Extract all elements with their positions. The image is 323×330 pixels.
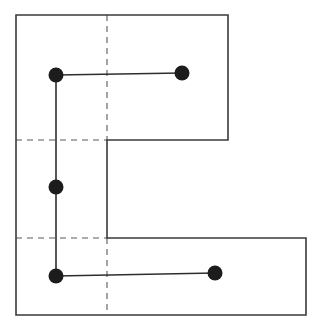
node-dot	[49, 180, 64, 195]
path-nodes	[49, 66, 223, 284]
connecting-path	[56, 73, 215, 276]
node-dot	[175, 66, 190, 81]
partition-dashed-lines	[16, 15, 107, 315]
path-segment	[56, 73, 182, 75]
node-dot	[208, 266, 223, 281]
path-segment	[56, 273, 215, 276]
polygon-partition-diagram	[0, 0, 323, 330]
node-dot	[49, 68, 64, 83]
node-dot	[49, 269, 64, 284]
